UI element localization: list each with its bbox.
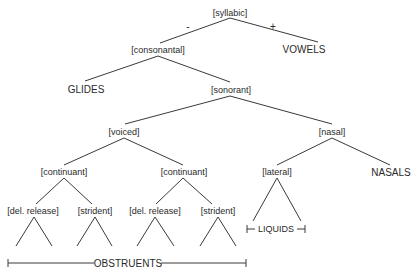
node-continuant-1: [continuant] xyxy=(41,167,88,177)
node-del-release-2: [del. release] xyxy=(129,206,181,216)
node-consonantal: [consonantal] xyxy=(131,45,185,55)
edge-strident2-right xyxy=(218,217,236,246)
minus-sign: - xyxy=(186,21,189,32)
edge-voiced-continuant2 xyxy=(124,138,183,165)
edge-delrelease1-left xyxy=(16,217,34,246)
edge-strident2-left xyxy=(200,217,218,246)
node-lateral: [lateral] xyxy=(262,167,292,177)
edge-delrelease2-left xyxy=(137,217,155,246)
edge-nasal-lateral xyxy=(277,138,332,165)
liquids-label: LIQUIDS xyxy=(258,224,294,234)
node-nasal: [nasal] xyxy=(319,127,346,137)
edge-sonorant-voiced xyxy=(125,96,230,124)
edge-sonorant-nasal xyxy=(230,96,332,124)
edge-continuant1-delrelease1 xyxy=(36,178,64,204)
edge-strident1-right xyxy=(95,217,112,246)
edge-delrelease2-right xyxy=(155,217,174,246)
plus-sign: + xyxy=(270,21,276,32)
obstruents-bracket: OBSTRUENTS xyxy=(8,258,246,269)
edge-syllabic-consonantal xyxy=(160,18,230,43)
liquids-bracket: LIQUIDS xyxy=(247,224,305,234)
edge-continuant2-delrelease2 xyxy=(156,178,183,204)
feature-tree-diagram: - + [syllabic] [consonantal] VOWELS GLID… xyxy=(0,0,417,273)
edge-strident1-left xyxy=(77,217,95,246)
node-strident-1: [strident] xyxy=(78,206,113,216)
obstruents-label: OBSTRUENTS xyxy=(94,258,163,269)
edge-voiced-continuant1 xyxy=(64,138,124,165)
node-voiced: [voiced] xyxy=(108,127,139,137)
node-glides: GLIDES xyxy=(68,84,105,95)
edge-continuant2-strident2 xyxy=(183,178,212,204)
edge-continuant1-strident1 xyxy=(64,178,92,204)
node-nasals: NASALS xyxy=(371,167,411,178)
edge-nasal-nasals xyxy=(332,138,390,165)
edge-lateral-left xyxy=(253,178,277,221)
node-strident-2: [strident] xyxy=(201,206,236,216)
node-syllabic: [syllabic] xyxy=(213,8,248,18)
node-continuant-2: [continuant] xyxy=(161,167,208,177)
node-sonorant: [sonorant] xyxy=(211,85,251,95)
node-vowels: VOWELS xyxy=(283,44,326,55)
edge-consonantal-sonorant xyxy=(158,56,230,82)
edge-consonantal-glides xyxy=(85,56,158,81)
edge-delrelease1-right xyxy=(34,217,52,246)
edge-lateral-right xyxy=(277,178,301,221)
node-del-release-1: [del. release] xyxy=(7,206,59,216)
